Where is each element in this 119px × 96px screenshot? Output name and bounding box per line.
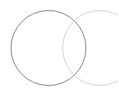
venn-diagram-canvas bbox=[0, 0, 118, 96]
left-circle bbox=[11, 11, 86, 86]
venn-diagram bbox=[0, 0, 118, 96]
right-circle bbox=[63, 11, 119, 86]
